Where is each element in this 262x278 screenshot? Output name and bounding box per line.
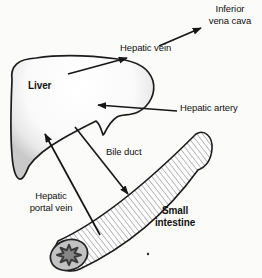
liver-label: Liver xyxy=(28,80,51,92)
hepatic-artery-label: Hepatic artery xyxy=(180,102,238,114)
hepatic-portal-vein-label: Hepatic portal vein xyxy=(21,190,81,213)
print-dot xyxy=(147,253,149,255)
small-intestine-label-line1: Small xyxy=(146,205,204,217)
hepatic-portal-vein-label-line1: Hepatic xyxy=(21,190,81,202)
intestine-lumen-star-icon xyxy=(57,245,81,265)
inferior-vena-cava-label: Inferior vena cava xyxy=(200,3,260,26)
liver-shape xyxy=(11,56,154,179)
hepatic-portal-vein-label-line2: portal vein xyxy=(21,202,81,214)
inferior-vena-cava-label-line1: Inferior xyxy=(200,3,260,15)
anatomy-diagram: Inferior vena cava Hepatic vein Liver He… xyxy=(0,0,262,278)
inferior-vena-cava-label-line2: vena cava xyxy=(200,15,260,27)
bile-duct-arrow xyxy=(75,127,128,194)
bile-duct-label: Bile duct xyxy=(106,146,142,158)
small-intestine-label-line2: intestine xyxy=(146,217,204,229)
hepatic-vein-label: Hepatic vein xyxy=(120,42,171,54)
small-intestine-label: Small intestine xyxy=(146,205,204,228)
